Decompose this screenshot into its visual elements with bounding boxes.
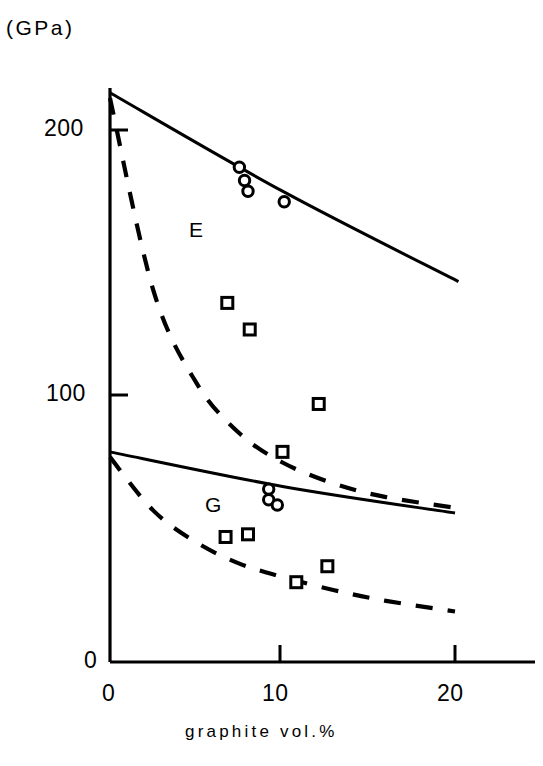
x-axis-title: graphite vol.%	[185, 722, 338, 742]
x-tick-label-0: 0	[102, 680, 115, 707]
curve-e-upper-bound	[110, 93, 458, 282]
data-point-circle	[243, 186, 253, 196]
y-tick-label-0: 0	[84, 647, 97, 674]
y-tick-label-200: 200	[44, 115, 84, 142]
marker-layer	[220, 162, 333, 588]
axis-lines	[110, 88, 535, 662]
y-tick-label-100: 100	[46, 380, 86, 407]
x-tick-label-20: 20	[437, 680, 464, 707]
data-point-square	[291, 577, 302, 588]
data-point-square	[243, 529, 254, 540]
data-point-circle	[279, 197, 289, 207]
data-point-circle	[234, 162, 244, 172]
curve-layer	[110, 93, 458, 612]
data-point-square	[313, 398, 324, 409]
curve-label-e: E	[189, 218, 203, 242]
data-point-circle	[272, 500, 282, 510]
x-axis-ticks	[280, 645, 455, 662]
data-point-square	[277, 446, 288, 457]
modulus-vs-graphite-figure: (GPa) 200 100 0 0 10 20 graphite vol.% E…	[0, 0, 543, 766]
data-point-circle	[264, 484, 274, 494]
y-axis-unit-label: (GPa)	[6, 16, 75, 40]
curve-label-g: G	[205, 493, 221, 517]
data-point-square	[244, 324, 255, 335]
data-point-square	[322, 561, 333, 572]
x-tick-label-10: 10	[262, 680, 289, 707]
data-point-square	[222, 297, 233, 308]
data-point-circle	[239, 175, 249, 185]
curve-g-lower-bound	[110, 457, 455, 611]
data-point-square	[220, 531, 231, 542]
